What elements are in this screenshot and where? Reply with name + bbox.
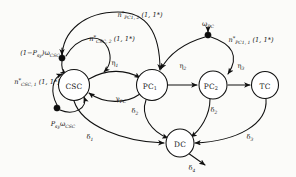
edge-label-n-pc1-1: n*PC1, 1 (1, 1*) — [228, 35, 273, 45]
edge-label-gamma-pc: γPC — [116, 95, 127, 103]
branch-point-csc-upper — [59, 55, 65, 61]
edge-label-delta2-pc1: δ2 — [132, 107, 139, 115]
edge-delta2-pc2-to-dc — [191, 99, 210, 137]
edge-label-delta2-pc2: δ2 — [211, 106, 218, 114]
node-label-dc: DC — [174, 139, 186, 148]
edge-delta2-pc1-to-dc — [144, 100, 168, 138]
node-label-tc: TC — [260, 81, 271, 90]
edge-label-n-csc-1: n*CSC, 1 (1, 1*) — [14, 77, 60, 87]
edge-label-n-csc-2: n*CSC, 2 (1, 1*) — [89, 34, 135, 44]
edge-label-omega-csc-positive: PsyωCSC — [50, 120, 76, 128]
edge-delta3-tc-to-dc — [195, 99, 266, 143]
edge-gamma-pc-pc1-to-csc — [89, 93, 140, 101]
branch-point-pc — [205, 32, 211, 38]
branch-point-csc-lower — [54, 105, 60, 111]
edge-label-delta3: δ3 — [247, 133, 254, 141]
edge-label-delta1: δ1 — [87, 133, 94, 141]
edge-label-omega-csc-negative: (1−Psy)ωCSC — [20, 49, 60, 57]
edge-label-eta3: η3 — [238, 62, 245, 70]
edge-label-omega-pc: ωPC — [202, 20, 214, 28]
diagram-canvas: CSC PC1 PC2 TC DC n*PC1, 2 (1, 1*) n*CSC… — [0, 0, 296, 177]
node-label-csc: CSC — [66, 81, 83, 90]
edge-label-eta2: η2 — [180, 62, 187, 70]
edge-eta1-csc-to-pc1 — [89, 71, 140, 79]
diagram-svg: CSC PC1 PC2 TC DC n*PC1, 2 (1, 1*) n*CSC… — [0, 0, 296, 177]
edge-label-eta1: η1 — [112, 59, 119, 67]
edge-label-n-pc1-2: n*PC1, 2 (1, 1*) — [117, 10, 162, 20]
edge-label-delta4: δ4 — [189, 164, 196, 172]
